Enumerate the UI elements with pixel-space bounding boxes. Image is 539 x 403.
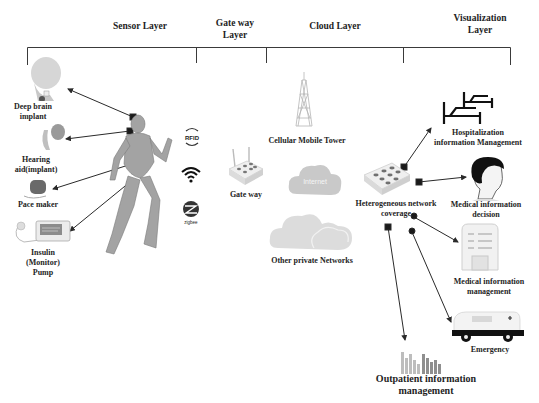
label-line: (Monitor)	[18, 258, 68, 268]
label-line: aid(implant)	[6, 165, 66, 175]
label-line: Heterogeneous network	[348, 199, 444, 209]
label-line: Outpatient information	[368, 373, 484, 385]
label-hearing-aid: Hearing aid(implant)	[6, 155, 66, 175]
label-cellular-tower: Cellular Mobile Tower	[262, 136, 352, 146]
zigbee-text: zigbee	[184, 220, 198, 225]
label-medical-decision: Medical information decision	[442, 200, 530, 220]
rfid-icon: RFID	[182, 126, 202, 148]
label-line: Hospitalization	[428, 128, 528, 138]
label-heterogeneous-network: Heterogeneous network coverage	[348, 199, 444, 219]
hospital-bed-icon	[440, 88, 500, 128]
label-line: management	[368, 385, 484, 397]
gateway-router-icon	[225, 145, 265, 187]
pacemaker-icon	[22, 178, 52, 200]
label-line: Deep brain	[8, 102, 58, 112]
outpatient-chart-icon	[400, 348, 444, 374]
label-other-private-networks: Other private Networks	[262, 256, 362, 266]
private-network-cloud-icon	[268, 208, 354, 254]
internet-cloud-icon: Internet	[285, 160, 345, 200]
network-hub-icon	[362, 155, 412, 197]
rfid-text: RFID	[185, 135, 200, 141]
label-gateway: Gate way	[222, 190, 270, 200]
cellular-tower-icon	[286, 70, 322, 130]
label-emergency: Emergency	[460, 345, 520, 355]
zigbee-icon: zigbee	[180, 200, 202, 226]
internet-text: Internet	[303, 178, 327, 185]
label-line: Hearing	[6, 155, 66, 165]
label-deep-brain-implant: Deep brain implant	[8, 102, 58, 122]
label-pacemaker: Pace maker	[8, 200, 68, 210]
label-line: Pump	[18, 268, 68, 278]
label-insulin-pump: Insulin (Monitor) Pump	[18, 248, 68, 278]
label-hospitalization: Hospitalization information Management	[428, 128, 528, 148]
label-line: decision	[442, 210, 530, 220]
label-outpatient: Outpatient information management	[368, 373, 484, 397]
insulin-pump-icon	[12, 218, 72, 246]
label-line: Medical information	[442, 200, 530, 210]
label-line: management	[444, 287, 534, 297]
head-brain-icon	[24, 55, 68, 101]
label-line: Insulin	[18, 248, 68, 258]
label-line: Medical information	[444, 277, 534, 287]
patient-face-icon	[466, 155, 506, 201]
ambulance-icon	[450, 306, 526, 344]
human-body-icon	[100, 114, 180, 264]
label-line: information Management	[428, 138, 528, 148]
label-line: coverage	[348, 209, 444, 219]
hearing-aid-icon	[38, 122, 66, 152]
wifi-icon	[180, 166, 202, 184]
hospital-building-icon	[458, 222, 502, 272]
label-medical-management: Medical information management	[444, 277, 534, 297]
label-line: implant	[8, 112, 58, 122]
